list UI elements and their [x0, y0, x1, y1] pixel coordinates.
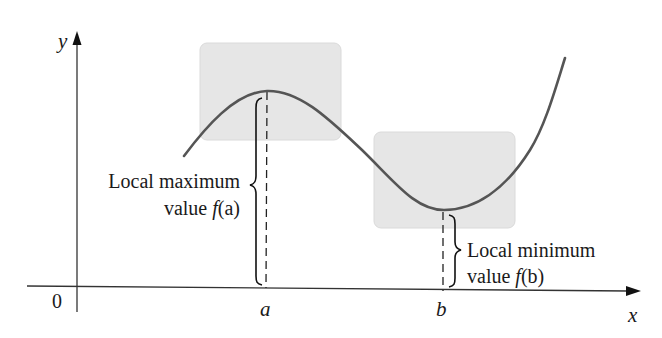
local-max-label-line2: value f(a) — [164, 197, 240, 220]
y-axis-label: y — [56, 29, 68, 53]
x-axis-arrow-icon — [626, 286, 641, 296]
x-axis-label: x — [627, 303, 638, 327]
local-min-label-line2: value f(b) — [467, 265, 544, 288]
origin-label: 0 — [52, 290, 62, 312]
y-axis-arrow-icon — [73, 31, 82, 45]
local-max-label-line1: Local maximum — [108, 170, 240, 192]
point-a-label: a — [260, 297, 271, 321]
point-b-label: b — [436, 297, 447, 321]
local-min-label-line1: Local minimum — [467, 239, 596, 261]
local-min-highlight-box — [374, 132, 515, 228]
local-extrema-diagram: y 0 a b x Local maximum value f(a) Local… — [0, 0, 662, 338]
